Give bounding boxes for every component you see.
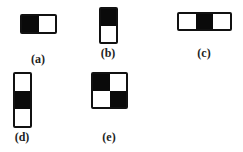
- cell-white: [15, 74, 30, 91]
- cell-white: [15, 109, 30, 126]
- haar-feature-b: [99, 7, 118, 44]
- cell-white: [39, 16, 56, 32]
- cell-black: [22, 16, 39, 32]
- cell-black: [93, 74, 110, 91]
- cell-white: [179, 14, 196, 29]
- label-b: (b): [88, 46, 128, 61]
- haar-feature-e: [91, 72, 128, 109]
- cell-white: [93, 91, 110, 108]
- haar-feature-d: [13, 72, 32, 128]
- cell-white: [101, 26, 116, 43]
- label-c: (c): [184, 46, 224, 61]
- label-a: (a): [18, 52, 58, 67]
- cell-white: [110, 74, 127, 91]
- cell-black: [110, 91, 127, 108]
- cell-white: [213, 14, 230, 29]
- haar-feature-a: [20, 14, 57, 34]
- haar-feature-c: [177, 12, 232, 31]
- cell-black: [101, 9, 116, 26]
- label-e: (e): [89, 130, 129, 145]
- label-d: (d): [2, 130, 42, 145]
- cell-black: [15, 91, 30, 108]
- cell-black: [196, 14, 213, 29]
